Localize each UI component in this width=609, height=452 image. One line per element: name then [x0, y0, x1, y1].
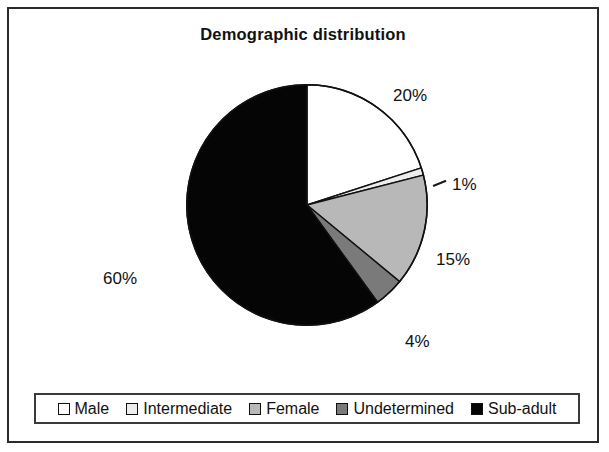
slice-value-label-male: 20%: [393, 87, 427, 104]
legend-item-undetermined[interactable]: Undetermined: [336, 401, 454, 417]
pie-slices: [187, 85, 427, 325]
chart-title: Demographic distribution: [9, 25, 597, 44]
pie-chart-graphic: [185, 83, 429, 327]
legend-swatch-icon: [58, 403, 70, 415]
legend-item-female[interactable]: Female: [249, 401, 319, 417]
chart-legend: MaleIntermediateFemaleUndeterminedSub-ad…: [34, 393, 580, 424]
legend-swatch-icon: [126, 403, 138, 415]
legend-item-intermediate[interactable]: Intermediate: [126, 401, 232, 417]
legend-item-label: Sub-adult: [488, 401, 557, 417]
pie-chart-plot-area: 20% 1% 15% 4% 60%: [9, 61, 597, 379]
pie-svg: [185, 83, 429, 327]
slice-value-label-undetermined: 4%: [405, 333, 430, 350]
legend-item-label: Undetermined: [353, 401, 454, 417]
legend-swatch-icon: [471, 403, 483, 415]
legend-item-male[interactable]: Male: [58, 401, 110, 417]
legend-item-label: Female: [266, 401, 319, 417]
chart-frame: Demographic distribution 20% 1% 15% 4% 6…: [7, 7, 599, 443]
slice-value-label-female: 15%: [436, 251, 470, 268]
legend-item-sub-adult[interactable]: Sub-adult: [471, 401, 557, 417]
slice-value-label-intermediate: 1%: [452, 176, 477, 193]
slice-value-label-sub-adult: 60%: [103, 270, 137, 287]
legend-item-label: Intermediate: [143, 401, 232, 417]
legend-item-label: Male: [75, 401, 110, 417]
leader-line-intermediate: [433, 180, 447, 187]
legend-swatch-icon: [249, 403, 261, 415]
legend-swatch-icon: [336, 403, 348, 415]
